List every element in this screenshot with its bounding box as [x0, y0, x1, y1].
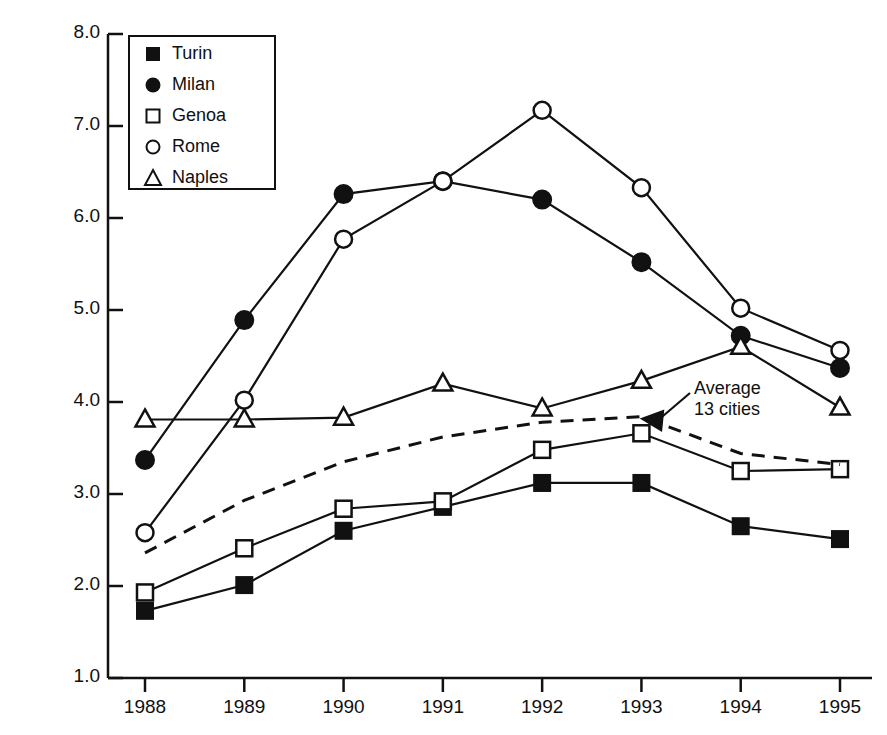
- marker-filled-square-icon: [142, 43, 164, 65]
- marker-filled-circle-icon: [142, 74, 164, 96]
- marker-filled-square: [236, 577, 252, 593]
- marker-filled-square: [733, 518, 749, 534]
- marker-filled-circle: [533, 191, 551, 209]
- annotation-line-1: Average: [694, 378, 761, 399]
- marker-open-square: [534, 442, 550, 458]
- marker-filled-square: [336, 523, 352, 539]
- legend-item-genoa[interactable]: Genoa: [130, 101, 274, 130]
- marker-open-triangle: [136, 409, 155, 426]
- marker-open-circle: [732, 300, 749, 317]
- marker-open-circle-icon: [142, 136, 164, 158]
- legend-item-naples[interactable]: Naples: [130, 163, 274, 192]
- marker-filled-circle: [136, 451, 154, 469]
- marker-open-circle: [534, 102, 551, 119]
- legend-item-label: Turin: [172, 43, 212, 64]
- marker-filled-square: [534, 475, 550, 491]
- marker-open-circle: [137, 524, 154, 541]
- legend-item-label: Genoa: [172, 105, 226, 126]
- marker-open-square: [236, 540, 252, 556]
- marker-open-triangle: [831, 398, 850, 415]
- marker-open-square: [733, 463, 749, 479]
- legend-item-label: Milan: [172, 74, 215, 95]
- marker-open-square: [435, 493, 451, 509]
- legend-item-label: Rome: [172, 136, 220, 157]
- legend: TurinMilanGenoaRomeNaples: [128, 35, 276, 190]
- line-chart-figure: 1980 lire (million) per m2 1.02.03.04.05…: [0, 0, 887, 735]
- marker-filled-circle: [632, 253, 650, 271]
- legend-item-rome[interactable]: Rome: [130, 132, 274, 161]
- legend-item-turin[interactable]: Turin: [130, 39, 274, 68]
- marker-open-triangle-icon: [142, 167, 164, 189]
- marker-filled-square: [832, 531, 848, 547]
- marker-filled-circle: [831, 359, 849, 377]
- marker-open-circle: [335, 231, 352, 248]
- marker-open-square: [137, 584, 153, 600]
- marker-filled-square: [137, 603, 153, 619]
- legend-item-label: Naples: [172, 167, 228, 188]
- marker-open-circle: [236, 392, 253, 409]
- annotation-average-13-cities: Average 13 cities: [694, 378, 761, 419]
- series-line-genoa: [145, 433, 840, 592]
- marker-open-square-icon: [142, 105, 164, 127]
- marker-open-circle: [633, 179, 650, 196]
- marker-open-triangle: [235, 409, 254, 426]
- legend-item-milan[interactable]: Milan: [130, 70, 274, 99]
- annotation-line-2: 13 cities: [694, 399, 761, 420]
- marker-open-square: [633, 425, 649, 441]
- marker-filled-circle: [235, 311, 253, 329]
- marker-open-circle: [832, 342, 849, 359]
- marker-open-triangle: [433, 374, 452, 391]
- marker-open-square: [336, 501, 352, 517]
- marker-open-circle: [434, 173, 451, 190]
- marker-filled-square: [633, 475, 649, 491]
- marker-filled-circle: [335, 185, 353, 203]
